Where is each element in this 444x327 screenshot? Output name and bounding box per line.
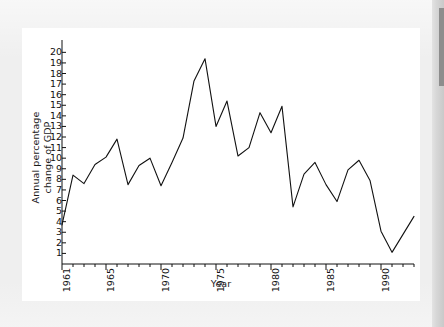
gdp-change-line <box>62 59 414 253</box>
y-tick-label-5: 5 <box>56 206 62 216</box>
y-tick-label-9: 9 <box>56 164 62 174</box>
y-tick-label-20: 20 <box>50 48 62 58</box>
y-axis-title-line-2: change of GDP <box>41 83 53 233</box>
x-axis-title: Year <box>22 278 420 289</box>
page-edge-marker <box>439 8 444 86</box>
chart-axes <box>62 40 414 264</box>
y-tick-label-19: 19 <box>50 58 62 68</box>
x-axis-tick-labels: 1961196519701975198019851990 <box>22 236 420 276</box>
figure-card: 1234567891011121314151617181920 19611965… <box>22 28 420 301</box>
y-tick-label-8: 8 <box>56 175 62 185</box>
y-axis-title: Annual percentage change of GDP <box>30 83 53 233</box>
y-axis-title-line-1: Annual percentage <box>30 83 42 233</box>
y-tick-label-4: 4 <box>56 217 62 227</box>
y-tick-label-6: 6 <box>56 196 62 206</box>
screenshot-page: 1234567891011121314151617181920 19611965… <box>0 0 444 327</box>
chart-area: 1234567891011121314151617181920 19611965… <box>22 28 420 301</box>
y-tick-label-7: 7 <box>56 185 62 195</box>
y-tick-label-18: 18 <box>50 69 62 79</box>
